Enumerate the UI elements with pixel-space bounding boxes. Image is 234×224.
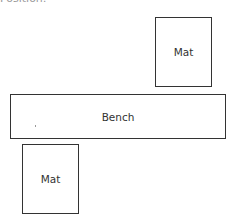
mat-bottom-label: Mat <box>41 173 61 185</box>
bench-label: Bench <box>102 111 135 123</box>
stray-mark <box>35 125 36 127</box>
cropped-heading-text: Position: <box>0 0 47 5</box>
mat-top-rectangle: Mat <box>155 17 212 87</box>
mat-bottom-rectangle: Mat <box>22 144 79 214</box>
mat-top-label: Mat <box>174 46 194 58</box>
bench-rectangle: Bench <box>10 94 226 139</box>
